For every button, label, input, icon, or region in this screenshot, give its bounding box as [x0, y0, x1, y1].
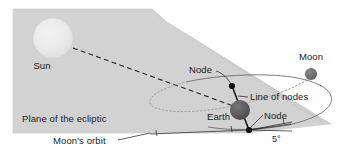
label-moon: Moon [299, 51, 323, 62]
sun-body [33, 18, 73, 58]
moon-body [305, 68, 317, 80]
earth-body [230, 100, 250, 120]
moon-orbit-diagram: Sun Plane of the ecliptic Node Line of n… [0, 0, 338, 159]
label-node-upper: Node [189, 64, 212, 75]
label-moons-orbit: Moon's orbit [53, 135, 106, 146]
label-node-lower: Node [264, 110, 287, 121]
label-inclination-angle: 5° [272, 134, 281, 144]
node-upper-marker [229, 83, 235, 89]
label-line-of-nodes: Line of nodes [250, 91, 308, 102]
label-earth: Earth [207, 111, 230, 122]
label-sun: Sun [33, 60, 50, 71]
label-plane-of-the-ecliptic: Plane of the ecliptic [22, 113, 107, 124]
moons-orbit-leader [118, 133, 150, 140]
diagram-canvas: Sun Plane of the ecliptic Node Line of n… [0, 0, 338, 159]
